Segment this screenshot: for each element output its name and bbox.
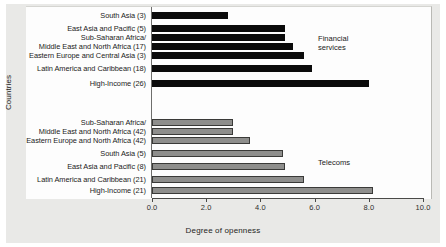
financial-services-category-label: South Asia (3)	[100, 12, 146, 20]
telecoms-category-label: High-Income (21)	[90, 187, 146, 195]
chart-figure: 0.02.04.06.08.010.0 South Asia (3)East A…	[0, 0, 446, 247]
x-tick-label: 8.0	[363, 203, 374, 212]
financial-services-bar	[152, 65, 312, 72]
annotation-financial-services: Financial services	[318, 34, 348, 52]
x-tick-label: 10.0	[416, 203, 431, 212]
financial-services-category-label: Latin America and Caribbean (18)	[37, 65, 146, 73]
telecoms-bar	[152, 137, 250, 144]
telecoms-category-label: South Asia (5)	[100, 150, 146, 158]
financial-services-bar	[152, 43, 293, 50]
x-tick-label: 4.0	[255, 203, 266, 212]
x-tick-mark	[152, 198, 153, 202]
x-tick-mark	[260, 198, 261, 202]
financial-services-category-label: Middle East and North Africa (17)	[39, 43, 146, 51]
x-tick-label: 0.0	[147, 203, 158, 212]
financial-services-bar	[152, 25, 285, 32]
financial-services-category-label: Eastern Europe and Central Asia (3)	[29, 52, 146, 60]
telecoms-bar	[152, 176, 304, 183]
financial-services-category-label: High-Income (26)	[90, 80, 146, 88]
financial-services-bar	[152, 34, 285, 41]
telecoms-category-label: Sub-Saharan Africa/	[81, 119, 146, 127]
annotation-telecoms-line1: Telecoms	[318, 158, 350, 167]
financial-services-bar	[152, 52, 304, 59]
annotation-financial-line1: Financial	[318, 34, 348, 43]
x-tick-mark	[423, 198, 424, 202]
annotation-telecoms: Telecoms	[318, 158, 350, 167]
x-axis-line	[152, 198, 423, 199]
x-tick-label: 2.0	[201, 203, 212, 212]
telecoms-category-label: Eastern Europe and North Africa (42)	[26, 137, 146, 145]
x-tick-mark	[206, 198, 207, 202]
annotation-financial-line2: services	[318, 43, 348, 52]
telecoms-category-label: Middle East and North Africa (42)	[39, 128, 146, 136]
financial-services-bar	[152, 12, 228, 19]
x-tick-mark	[315, 198, 316, 202]
telecoms-category-label: Latin America and Caribbean (21)	[37, 176, 146, 184]
telecoms-bar	[152, 187, 373, 194]
telecoms-bar	[152, 163, 285, 170]
financial-services-bar	[152, 80, 369, 87]
y-axis-label: Countries	[4, 63, 13, 123]
x-axis-label: Degree of openness	[0, 226, 446, 235]
x-tick-label: 6.0	[309, 203, 320, 212]
financial-services-category-label: East Asia and Pacific (5)	[67, 25, 146, 33]
telecoms-bar	[152, 128, 233, 135]
telecoms-category-label: East Asia and Pacific (8)	[67, 163, 146, 171]
x-tick-mark	[369, 198, 370, 202]
telecoms-bar	[152, 119, 233, 126]
telecoms-bar	[152, 150, 283, 157]
financial-services-category-label: Sub-Saharan Africa/	[81, 34, 146, 42]
